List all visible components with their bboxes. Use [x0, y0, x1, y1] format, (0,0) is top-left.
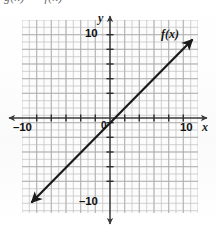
- function-label-fx: f(x): [161, 27, 179, 42]
- origin-label: 0: [101, 120, 107, 131]
- y-axis-tick-label-minus10: –10: [79, 195, 98, 207]
- x-axis-label: x: [202, 120, 208, 135]
- coordinate-plane: [0, 0, 216, 226]
- y-axis-tick-label-10: 10: [85, 27, 97, 39]
- figure-canvas: g(x) = -f(x) +: [0, 0, 216, 226]
- x-axis-tick-label-minus10: –10: [13, 121, 32, 133]
- x-axis-tick-label-10: 10: [180, 121, 192, 133]
- y-axis-label: y: [98, 11, 103, 26]
